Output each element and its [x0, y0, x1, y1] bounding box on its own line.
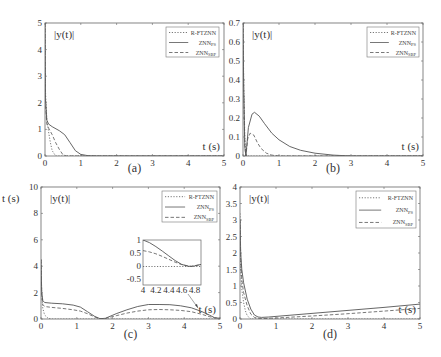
y-tick-label: 2 — [233, 248, 238, 258]
y-tick-label: 3 — [38, 71, 43, 81]
legend-label: R-FTZNN — [388, 195, 414, 201]
y-tick-label: 0 — [233, 314, 238, 324]
panel-c: 0123450246810|y(t)|t (s)t (s)(c)R-FTZNNZ… — [2, 182, 223, 341]
y-tick-label: 0.1 — [229, 132, 240, 142]
x-tick-label: 3 — [349, 158, 354, 168]
y-tick-label: 2 — [38, 98, 43, 108]
legend-label: R-FTZNN — [189, 194, 215, 200]
x-tick-label: 2 — [313, 158, 318, 168]
inset-y-tick: 0.5 — [130, 248, 142, 258]
y-axis-label: |y(t)| — [252, 28, 272, 41]
x-tick-label: 4 — [186, 158, 191, 168]
x-tick-label: 3 — [346, 321, 351, 331]
outer-axis-label: t (s) — [2, 192, 20, 205]
inset-y-tick: -0.5 — [127, 274, 142, 284]
inset-x-tick: 4 — [141, 285, 146, 295]
inset-x-tick: 4.4 — [163, 285, 175, 295]
x-tick-label: 5 — [222, 158, 227, 168]
panel-caption: (c) — [124, 327, 137, 341]
y-axis-label: |y(t)| — [50, 192, 70, 205]
y-tick-label: 3.5 — [226, 199, 238, 209]
x-tick-label: 5 — [421, 158, 426, 168]
x-axis-label: t (s) — [199, 303, 217, 316]
legend-label: R-FTZNN — [191, 30, 217, 36]
inset-y-tick: 1 — [137, 235, 142, 245]
y-tick-label: 1 — [233, 281, 238, 291]
x-tick-label: 5 — [418, 321, 423, 331]
panel-caption: (b) — [326, 161, 340, 175]
y-tick-label: 4 — [34, 261, 39, 271]
panel-b: 01234500.10.20.30.40.50.60.7|y(t)|t (s)(… — [229, 18, 426, 175]
figure: 012345012345|y(t)|t (s)(a)R-FTZNNZNNPSZN… — [0, 0, 441, 357]
x-tick-label: 1 — [79, 158, 84, 168]
x-tick-label: 0 — [43, 158, 48, 168]
y-tick-label: 2.5 — [226, 232, 238, 242]
y-tick-label: 0.6 — [229, 37, 241, 47]
y-tick-label: 6 — [34, 235, 39, 245]
y-tick-label: 0.5 — [229, 56, 241, 66]
x-tick-label: 2 — [114, 158, 119, 168]
x-tick-label: 0 — [39, 321, 44, 331]
series-r-ftznn — [240, 213, 420, 319]
y-tick-label: 0.4 — [229, 75, 241, 85]
panel-d: 01234500.511.522.533.54|y(t)|t (s)(d)R-F… — [226, 182, 423, 341]
plot-area — [240, 213, 420, 319]
x-tick-label: 4 — [182, 321, 187, 331]
y-tick-label: 3 — [233, 215, 238, 225]
series-znn-ps — [240, 220, 420, 317]
inset-x-tick: 4.2 — [150, 285, 161, 295]
panel-caption: (d) — [323, 327, 337, 341]
x-tick-label: 0 — [241, 158, 246, 168]
inset-x-tick: 4.8 — [189, 285, 201, 295]
y-tick-label: 0 — [34, 314, 39, 324]
legend-label: R-FTZNN — [391, 30, 417, 36]
x-tick-label: 2 — [110, 321, 115, 331]
y-tick-label: 0.2 — [229, 113, 240, 123]
x-axis-label: t (s) — [203, 140, 221, 153]
x-tick-label: 4 — [385, 158, 390, 168]
x-tick-label: 2 — [310, 321, 315, 331]
series-znn-sbp — [240, 220, 420, 319]
y-tick-label: 4 — [233, 182, 238, 192]
y-tick-label: 0.3 — [229, 94, 241, 104]
x-tick-label: 0 — [238, 321, 243, 331]
x-tick-label: 3 — [150, 158, 155, 168]
inset-y-tick: 0 — [137, 261, 142, 271]
x-tick-label: 5 — [218, 321, 223, 331]
y-tick-label: 0 — [236, 151, 241, 161]
y-tick-label: 0.7 — [229, 18, 241, 28]
panel-a: 012345012345|y(t)|t (s)(a)R-FTZNNZNNPSZN… — [38, 18, 227, 175]
x-tick-label: 4 — [382, 321, 387, 331]
panel-caption: (a) — [128, 161, 141, 175]
y-tick-label: 1 — [38, 124, 43, 134]
y-tick-label: 4 — [38, 45, 43, 55]
y-tick-label: 0.5 — [226, 298, 238, 308]
x-tick-label: 1 — [75, 321, 80, 331]
y-axis-label: |y(t)| — [54, 28, 74, 41]
x-tick-label: 1 — [274, 321, 279, 331]
x-tick-label: 3 — [146, 321, 151, 331]
x-tick-label: 1 — [277, 158, 282, 168]
inset-x-tick: 4.6 — [176, 285, 188, 295]
zoom-inset: 44.24.44.64.8-0.500.51 — [127, 235, 201, 309]
x-axis-label: t (s) — [402, 140, 420, 153]
y-tick-label: 2 — [34, 288, 39, 298]
y-axis-label: |y(t)| — [249, 192, 269, 205]
x-axis-label: t (s) — [399, 303, 417, 316]
y-tick-label: 0 — [38, 151, 43, 161]
y-tick-label: 1.5 — [226, 265, 238, 275]
y-tick-label: 8 — [34, 208, 39, 218]
y-tick-label: 5 — [38, 18, 43, 28]
y-tick-label: 10 — [29, 182, 39, 192]
